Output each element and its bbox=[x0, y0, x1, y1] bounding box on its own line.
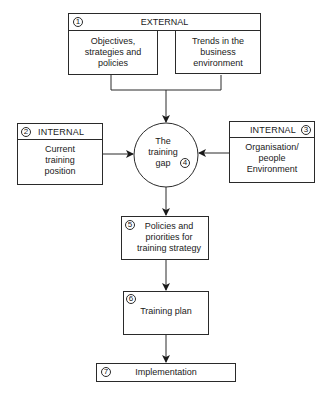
step-number-3: 3 bbox=[301, 125, 311, 135]
training-plan-box: 6 Training plan bbox=[123, 291, 209, 335]
external-header: 1 EXTERNAL bbox=[68, 13, 261, 31]
implementation-label: Implementation bbox=[97, 367, 235, 378]
training-strategy-diagram: 1 EXTERNAL Objectives, strategies and po… bbox=[0, 0, 332, 398]
policies-box: 5 Policies and priorities for training s… bbox=[121, 216, 209, 260]
implementation-box: 7 Implementation bbox=[96, 363, 236, 382]
trends-box: Trends in the business environment bbox=[175, 30, 261, 74]
step-number-2: 2 bbox=[21, 127, 31, 137]
current-training-position-label: Current training position bbox=[18, 144, 102, 177]
step-number-4: 4 bbox=[180, 158, 190, 168]
objectives-label: Objectives, strategies and policies bbox=[69, 36, 157, 69]
training-plan-label: Training plan bbox=[124, 306, 208, 317]
internal-right-box: INTERNAL 3 Organisation/ people Environm… bbox=[229, 121, 315, 183]
internal-left-header-label: INTERNAL bbox=[38, 127, 84, 137]
internal-right-header-label: INTERNAL bbox=[250, 125, 296, 135]
policies-label: Policies and priorities for training str… bbox=[122, 221, 208, 254]
external-header-label: EXTERNAL bbox=[69, 17, 260, 27]
objectives-box: Objectives, strategies and policies bbox=[68, 30, 158, 75]
trends-label: Trends in the business environment bbox=[176, 36, 260, 69]
external-box: 1 EXTERNAL Objectives, strategies and po… bbox=[68, 13, 261, 75]
internal-left-box: 2 INTERNAL Current training position bbox=[17, 123, 103, 185]
internal-left-header: 2 INTERNAL bbox=[18, 124, 102, 140]
internal-right-header: INTERNAL 3 bbox=[230, 122, 314, 138]
training-gap-label: The training gap bbox=[143, 136, 183, 169]
organisation-people-label: Organisation/ people Environment bbox=[230, 142, 314, 175]
figure-caption-cutoff bbox=[0, 390, 332, 398]
step-number-6: 6 bbox=[126, 294, 136, 304]
